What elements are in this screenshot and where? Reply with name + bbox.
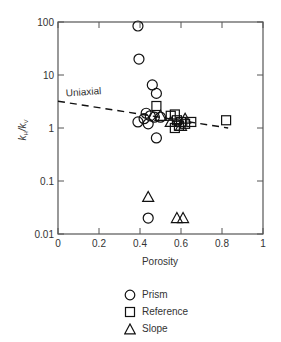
scatter-plot: 00.20.40.60.810.010.1110100 Porosity kH/… [0, 0, 281, 285]
legend-label-reference: Reference [142, 306, 188, 317]
prism-point [134, 54, 144, 64]
x-tick-label: 0 [55, 238, 61, 249]
square-marker-icon [124, 306, 136, 318]
prism-point [143, 213, 153, 223]
x-tick-label: 1 [260, 238, 266, 249]
y-axis-title: kH/kV [17, 119, 29, 140]
slope-point [143, 191, 154, 201]
triangle-marker-icon [124, 323, 136, 335]
y-tick-label: 100 [37, 17, 54, 28]
legend-item-reference: Reference [124, 303, 188, 320]
y-tick-label: 1 [48, 123, 54, 134]
prism-point [133, 117, 143, 127]
x-tick-label: 0.8 [215, 238, 229, 249]
legend: Prism Reference Slope [124, 286, 188, 337]
x-tick-label: 0.6 [174, 238, 188, 249]
x-tick-label: 0.4 [133, 238, 147, 249]
y-tick-label: 10 [43, 70, 55, 81]
legend-label-prism: Prism [142, 289, 168, 300]
y-tick-label: 0.1 [40, 176, 54, 187]
prism-point [151, 88, 161, 98]
x-tick-label: 0.2 [92, 238, 106, 249]
prism-point [151, 133, 161, 143]
reference-point [152, 102, 161, 111]
uniaxial-annotation: Uniaxial [65, 85, 101, 98]
data-points [133, 21, 231, 223]
legend-item-prism: Prism [124, 286, 188, 303]
circle-marker-icon [124, 289, 136, 301]
reference-point [222, 116, 231, 125]
legend-label-slope: Slope [142, 323, 168, 334]
x-axis-title: Porosity [142, 256, 178, 267]
y-tick-label: 0.01 [35, 229, 55, 240]
legend-item-slope: Slope [124, 320, 188, 337]
